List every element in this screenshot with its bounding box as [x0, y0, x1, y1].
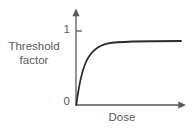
y-axis-arrowhead-icon [72, 9, 79, 17]
threshold-factor-dose-chart: Threshold factor Dose 1 0 [0, 0, 192, 132]
y-tick-label-1: 1 [56, 23, 70, 37]
y-axis-label-line-1: Threshold [0, 40, 68, 54]
x-axis-label: Dose [92, 111, 152, 125]
y-axis-label-line-2: factor [0, 54, 68, 68]
threshold-factor-curve [76, 41, 181, 105]
y-axis-label: Threshold factor [0, 40, 68, 67]
x-axis-arrowhead-icon [178, 101, 186, 108]
y-tick-label-0: 0 [56, 95, 70, 109]
